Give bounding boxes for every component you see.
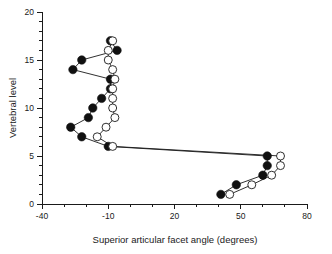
data-point-filled — [97, 94, 105, 102]
data-point-filled — [69, 65, 77, 73]
y-tick-label: 10 — [25, 103, 35, 113]
data-point-filled — [78, 133, 86, 141]
data-point-filled — [263, 161, 271, 169]
data-point-open — [109, 142, 117, 150]
x-tick-label: 80 — [302, 211, 312, 221]
y-tick-label: 5 — [29, 151, 34, 161]
series-line-filled-circles — [71, 41, 268, 195]
data-point-open — [111, 114, 119, 122]
data-point-filled — [84, 113, 92, 121]
data-point-filled — [217, 190, 225, 198]
axis-ticks — [37, 12, 307, 209]
data-point-open — [104, 56, 112, 64]
y-tick-label: 0 — [29, 199, 34, 209]
data-point-open — [109, 104, 117, 112]
data-point-open — [248, 181, 256, 189]
data-point-open — [109, 37, 117, 45]
x-axis-title: Superior articular facet angle (degrees) — [93, 234, 258, 245]
data-point-open — [226, 190, 234, 198]
data-point-filled — [89, 104, 97, 112]
chart-figure: -40-1020508005101520 Superior articular … — [0, 0, 332, 254]
data-point-open — [109, 94, 117, 102]
data-point-open — [109, 66, 117, 74]
data-point-filled — [259, 171, 267, 179]
data-point-open — [111, 75, 119, 83]
y-tick-label: 20 — [25, 7, 35, 17]
axis-tick-labels: -40-1020508005101520 — [25, 7, 312, 221]
series-line-open-circles — [97, 41, 280, 195]
data-point-open — [277, 162, 285, 170]
y-axis-title: Vertebral level — [7, 78, 18, 138]
x-tick-label: -10 — [102, 211, 115, 221]
chart-plot-area: -40-1020508005101520 Superior articular … — [0, 0, 332, 254]
data-point-filled — [232, 181, 240, 189]
data-point-open — [104, 46, 112, 54]
data-point-open — [102, 123, 110, 131]
data-point-filled — [113, 46, 121, 54]
data-point-filled — [78, 56, 86, 64]
x-tick-label: 20 — [170, 211, 180, 221]
data-point-filled — [67, 123, 75, 131]
x-tick-label: 50 — [236, 211, 246, 221]
y-tick-label: 15 — [25, 55, 35, 65]
data-point-open — [277, 152, 285, 160]
data-point-open — [93, 133, 101, 141]
x-tick-label: -40 — [36, 211, 49, 221]
series-lines — [71, 41, 281, 195]
data-point-filled — [263, 152, 271, 160]
data-point-open — [268, 171, 276, 179]
data-point-open — [109, 85, 117, 93]
series-markers — [67, 37, 285, 199]
